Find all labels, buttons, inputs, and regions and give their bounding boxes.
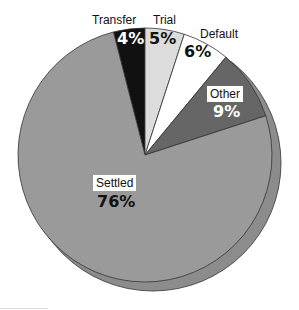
label-settled: Settled — [93, 175, 136, 191]
label-transfer: Transfer — [92, 14, 136, 26]
label-other: Other — [207, 86, 243, 102]
label-trial: Trial — [153, 14, 176, 26]
pct-other: 9% — [213, 104, 240, 120]
label-default: Default — [200, 28, 238, 40]
pct-trial: 5% — [149, 31, 176, 47]
pct-default: 6% — [184, 44, 211, 60]
pct-settled: 76% — [97, 194, 135, 210]
pie-slices — [18, 28, 272, 282]
pct-transfer: 4% — [117, 31, 144, 47]
divider — [0, 308, 48, 309]
